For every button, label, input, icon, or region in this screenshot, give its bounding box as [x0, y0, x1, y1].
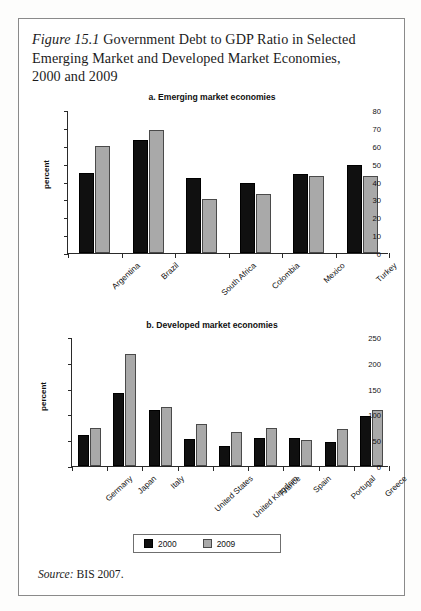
y-axis-tick	[64, 129, 68, 130]
y-axis-tick-label: 10	[373, 232, 381, 241]
y-axis-tick	[64, 183, 68, 184]
x-axis-tick	[142, 466, 143, 471]
bar-2000-turkey	[347, 165, 362, 253]
bar-2000-united-states	[184, 439, 195, 466]
bar-2009-spain	[301, 440, 312, 466]
figure-number: Figure 15.1	[32, 31, 100, 47]
bar-2009-south-africa	[202, 199, 217, 253]
x-axis-label: Japan	[136, 474, 158, 496]
bar-2009-france	[266, 428, 277, 466]
legend-swatch-2000-icon	[144, 539, 153, 548]
x-axis-tick	[282, 253, 283, 258]
y-axis-tick	[68, 390, 72, 391]
legend-swatch-2009-icon	[203, 539, 212, 548]
x-axis-label: United States	[213, 474, 255, 514]
x-axis-tick	[68, 253, 69, 258]
x-axis-label: Mexico	[322, 261, 347, 285]
bar-2000-japan	[113, 393, 124, 466]
x-axis-tick	[319, 466, 320, 471]
figure-title: Figure 15.1 Government Debt to GDP Ratio…	[32, 30, 372, 86]
y-axis-tick	[64, 147, 68, 148]
bar-2000-south-africa	[186, 178, 201, 253]
legend: 2000 2009	[133, 534, 281, 553]
y-axis-tick	[64, 165, 68, 166]
chart-a-bars	[68, 111, 388, 253]
y-axis-tick	[68, 338, 72, 339]
legend-item-2000: 2000	[144, 539, 177, 549]
chart-a-subtitle: a. Emerging market economies	[32, 92, 392, 102]
y-axis-tick-label: 50	[373, 437, 381, 446]
y-axis-tick-label: 30	[373, 196, 381, 205]
y-axis-tick-label: 200	[368, 359, 381, 368]
x-axis-label: Germany	[104, 474, 134, 503]
source-keyword: Source:	[38, 568, 74, 581]
bar-2000-italy	[149, 410, 160, 466]
x-axis-tick	[175, 253, 176, 258]
bar-2009-united-states	[196, 424, 207, 466]
x-axis-tick	[107, 466, 108, 471]
chart-b-y-axis-label: percent	[39, 367, 48, 427]
chart-emerging-market-economies: a. Emerging market economies percent 010…	[32, 92, 392, 307]
x-axis-label: Spain	[311, 474, 332, 495]
bar-2009-colombia	[256, 194, 271, 253]
x-axis-tick	[389, 253, 390, 258]
bar-2009-germany	[90, 428, 101, 466]
x-axis-label: Brazil	[160, 261, 181, 281]
x-axis-label: Italy	[169, 474, 186, 491]
bar-2000-argentina	[79, 173, 94, 253]
y-axis-tick	[68, 364, 72, 365]
chart-b-subtitle: b. Developed market economies	[32, 320, 392, 330]
x-axis-label: Colombia	[270, 261, 301, 291]
bar-2000-colombia	[240, 183, 255, 253]
bar-2000-portugal	[325, 442, 336, 466]
bar-2000-united-kingdom	[219, 446, 230, 466]
chart-a-plot-area: 01020304050607080ArgentinaBrazilSouth Af…	[67, 111, 388, 254]
legend-item-2009: 2009	[203, 539, 236, 549]
y-axis-tick-label: 250	[368, 334, 381, 343]
x-axis-label: Portugal	[349, 474, 377, 501]
x-axis-tick	[248, 466, 249, 471]
bar-2000-france	[254, 438, 265, 466]
y-axis-tick-label: 100	[368, 411, 381, 420]
chart-developed-market-economies: b. Developed market economies percent 05…	[32, 320, 392, 525]
x-axis-label: Argentina	[110, 261, 141, 291]
source-text: BIS 2007.	[77, 568, 124, 581]
y-axis-tick-label: 80	[373, 107, 381, 116]
y-axis-tick-label: 20	[373, 214, 381, 223]
bar-2000-spain	[289, 438, 300, 466]
y-axis-tick-label: 60	[373, 142, 381, 151]
x-axis-tick	[354, 466, 355, 471]
bar-2009-argentina	[95, 146, 110, 253]
y-axis-tick	[68, 441, 72, 442]
x-axis-tick	[72, 466, 73, 471]
bar-2009-united-kingdom	[231, 432, 242, 466]
x-axis-tick	[213, 466, 214, 471]
x-axis-tick	[389, 466, 390, 471]
bar-2009-mexico	[309, 176, 324, 253]
y-axis-tick-label: 50	[373, 160, 381, 169]
bar-2000-brazil	[133, 140, 148, 253]
legend-label-2009: 2009	[217, 539, 236, 549]
source-note: Source: BIS 2007.	[38, 568, 124, 581]
chart-a-y-axis-label: percent	[42, 145, 51, 205]
y-axis-tick	[64, 111, 68, 112]
bar-2000-germany	[78, 435, 89, 466]
bar-2009-brazil	[149, 130, 164, 253]
y-axis-tick-label: 70	[373, 124, 381, 133]
bar-2009-italy	[161, 407, 172, 466]
y-axis-tick-label: 0	[377, 250, 381, 259]
y-axis-tick-label: 40	[373, 178, 381, 187]
x-axis-tick	[283, 466, 284, 471]
x-axis-label: South Africa	[219, 261, 257, 297]
x-axis-tick	[229, 253, 230, 258]
bar-2009-japan	[125, 354, 136, 466]
chart-b-bars	[72, 338, 388, 466]
y-axis-tick	[64, 218, 68, 219]
x-axis-tick	[336, 253, 337, 258]
y-axis-tick	[68, 415, 72, 416]
bar-2009-portugal	[337, 429, 348, 466]
y-axis-tick-label: 150	[368, 385, 381, 394]
bar-2000-mexico	[293, 174, 308, 253]
x-axis-tick	[178, 466, 179, 471]
chart-b-plot-area: 050100150200250GermanyJapanItalyUnited S…	[71, 338, 388, 467]
